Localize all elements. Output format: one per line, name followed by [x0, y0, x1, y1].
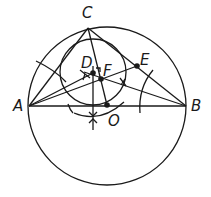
- label-B: B: [191, 99, 201, 114]
- label-O: O: [108, 114, 120, 129]
- label-A: A: [13, 99, 23, 114]
- label-D: D: [81, 56, 93, 71]
- point-E: [134, 63, 140, 69]
- diagram-svg: [0, 0, 211, 197]
- label-F: F: [103, 64, 112, 79]
- point-O: [104, 102, 110, 108]
- geometry-diagram: C A B D E F O: [0, 0, 211, 197]
- label-C: C: [82, 6, 92, 21]
- label-E: E: [140, 53, 149, 68]
